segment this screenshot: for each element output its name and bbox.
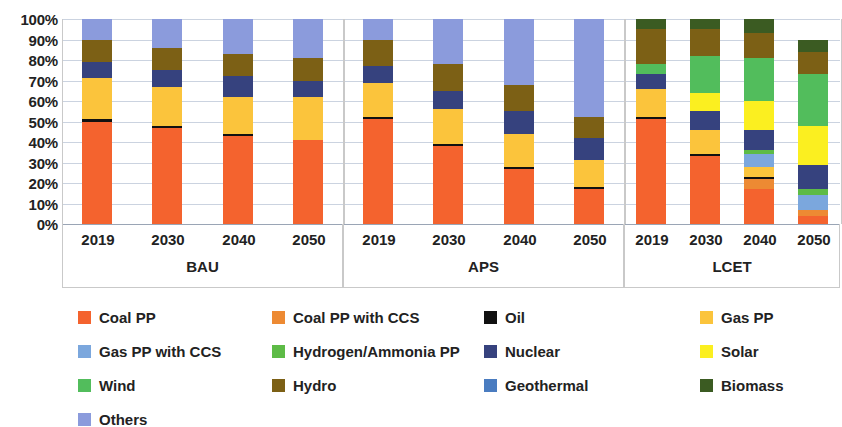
bar-segment (690, 130, 720, 155)
legend-item[interactable]: Geothermal (484, 378, 588, 393)
legend-item[interactable]: Gas PP with CCS (78, 344, 221, 359)
bar-segment (574, 19, 604, 117)
bar-segment (574, 138, 604, 161)
bar-segment (798, 126, 828, 165)
legend-item[interactable]: Hydro (272, 378, 336, 393)
legend-item[interactable]: Gas PP (700, 310, 774, 325)
legend-label: Biomass (721, 378, 784, 393)
legend-item[interactable]: Nuclear (484, 344, 560, 359)
legend-label: Solar (721, 344, 759, 359)
x-axis-year-label: 2050 (790, 232, 838, 249)
legend-swatch-icon (78, 345, 91, 358)
x-axis-year-label: 2050 (285, 232, 333, 249)
bar-segment (798, 52, 828, 75)
bar-segment (363, 19, 393, 40)
bar-segment (574, 160, 604, 187)
bar-segment (744, 189, 774, 224)
x-axis-group-label: LCET (625, 258, 839, 275)
bar-bau-2050 (293, 19, 323, 224)
bar-aps-2019 (363, 19, 393, 224)
x-axis-year-label: 2030 (682, 232, 730, 249)
bar-segment (293, 81, 323, 97)
bar-segment (744, 101, 774, 130)
bar-segment (363, 66, 393, 82)
bar-segment (433, 19, 463, 64)
legend-label: Nuclear (505, 344, 560, 359)
legend-swatch-icon (272, 345, 285, 358)
bar-segment (152, 126, 182, 128)
bar-segment (574, 117, 604, 138)
legend-label: Others (99, 412, 147, 427)
legend-swatch-icon (78, 379, 91, 392)
legend-swatch-icon (700, 311, 713, 324)
bar-segment (504, 19, 534, 85)
bar-segment (636, 19, 666, 29)
bar-segment (690, 93, 720, 111)
bar-segment (798, 74, 828, 125)
legend-item[interactable]: Coal PP with CCS (272, 310, 419, 325)
bar-segment (690, 29, 720, 56)
legend-item[interactable]: Others (78, 412, 147, 427)
legend-item[interactable]: Biomass (700, 378, 784, 393)
x-axis-year-label: 2040 (215, 232, 263, 249)
bar-segment (223, 134, 253, 136)
bar-segment (293, 19, 323, 58)
bar-segment (223, 54, 253, 77)
bar-lcet-2019 (636, 19, 666, 224)
bar-segment (636, 119, 666, 224)
bar-segment (433, 144, 463, 146)
x-axis-year-label: 2019 (74, 232, 122, 249)
legend-item[interactable]: Hydrogen/Ammonia PP (272, 344, 460, 359)
bars-layer (0, 19, 841, 224)
bar-segment (744, 177, 774, 179)
bar-lcet-2040 (744, 19, 774, 224)
bar-segment (504, 85, 534, 112)
bar-segment (82, 119, 112, 121)
bar-segment (152, 87, 182, 126)
legend-item[interactable]: Wind (78, 378, 136, 393)
bar-bau-2030 (152, 19, 182, 224)
legend-label: Gas PP with CCS (99, 344, 221, 359)
legend-swatch-icon (484, 379, 497, 392)
legend-swatch-icon (484, 345, 497, 358)
bar-bau-2019 (82, 19, 112, 224)
legend-swatch-icon (272, 379, 285, 392)
legend-label: Hydro (293, 378, 336, 393)
legend-item[interactable]: Coal PP (78, 310, 156, 325)
bar-segment (636, 64, 666, 74)
legend-swatch-icon (700, 379, 713, 392)
bar-segment (744, 154, 774, 166)
bar-segment (744, 58, 774, 101)
bar-segment (363, 117, 393, 119)
x-axis-year-label: 2040 (736, 232, 784, 249)
x-axis-year-label: 2030 (425, 232, 473, 249)
bar-segment (798, 210, 828, 216)
legend-swatch-icon (700, 345, 713, 358)
x-axis-year-label: 2050 (566, 232, 614, 249)
x-group-bau: 2019203020402050BAU (62, 224, 343, 288)
legend-label: Gas PP (721, 310, 774, 325)
legend-label: Coal PP (99, 310, 156, 325)
chart-legend: Coal PPCoal PP with CCSOilGas PPGas PP w… (0, 300, 841, 427)
bar-segment (504, 134, 534, 167)
legend-label: Coal PP with CCS (293, 310, 419, 325)
bar-segment (152, 48, 182, 71)
bar-segment (504, 111, 534, 134)
bar-segment (690, 111, 720, 129)
bar-segment (574, 189, 604, 224)
x-group-lcet: 2019203020402050LCET (624, 224, 840, 288)
bar-segment (433, 146, 463, 224)
bar-segment (223, 97, 253, 134)
x-group-aps: 2019203020402050APS (343, 224, 624, 288)
bar-segment (504, 167, 534, 169)
legend-label: Oil (505, 310, 525, 325)
bar-segment (504, 169, 534, 224)
legend-item[interactable]: Solar (700, 344, 759, 359)
bar-segment (636, 117, 666, 119)
legend-swatch-icon (484, 311, 497, 324)
bar-segment (690, 154, 720, 156)
bar-segment (574, 187, 604, 189)
legend-item[interactable]: Oil (484, 310, 525, 325)
legend-label: Hydrogen/Ammonia PP (293, 344, 460, 359)
legend-label: Wind (99, 378, 136, 393)
